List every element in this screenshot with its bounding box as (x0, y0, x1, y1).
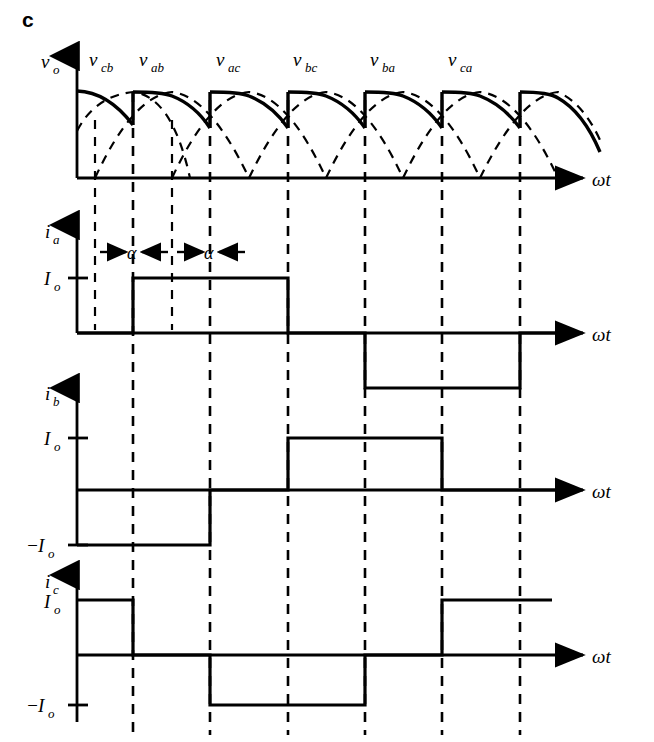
ic-label-sub: c (53, 582, 59, 597)
ib-x-axis-label: ωt (592, 481, 611, 502)
ib-tick-Io-sub: o (54, 439, 61, 454)
alpha-label-1: α (127, 243, 137, 263)
segment-label-vab-main: v (139, 49, 148, 70)
ic-tick-label-neg-Io: − I o (26, 695, 55, 721)
segment-label-vab: v ab (139, 49, 165, 75)
ic-label-main: i (45, 571, 50, 592)
ic-tick-neg-sub: o (48, 706, 55, 721)
ib-tick-neg-main: I (37, 535, 46, 556)
alpha-label-2: α (204, 243, 214, 263)
segment-label-vac-sub: ac (228, 60, 241, 75)
segment-label-vca-main: v (448, 49, 457, 70)
ia-axis-label: i a (45, 221, 60, 247)
segment-label-vbc: v bc (293, 49, 318, 75)
segment-label-vac-main: v (216, 49, 225, 70)
ia-x-axis-label: ωt (592, 324, 611, 345)
gridline-group-commutation (133, 92, 520, 735)
figure-container: c (0, 0, 654, 742)
segment-label-vac: v ac (216, 49, 241, 75)
waveform-diagram: v o ωt v cb v ab v ac v (0, 0, 654, 742)
segment-label-vba-sub: ba (382, 60, 396, 75)
segment-label-vba-main: v (370, 49, 379, 70)
ib-tick-label-neg-Io: − I o (26, 535, 55, 561)
vo-solid-waveform (77, 91, 600, 152)
segment-label-vcb-main: v (89, 49, 98, 70)
segment-label-vcb-sub: cb (101, 60, 114, 75)
segment-label-vba: v ba (370, 49, 396, 75)
ib-label-sub: b (53, 394, 60, 409)
ic-waveform (77, 600, 552, 705)
vo-axis-label: v o (41, 51, 60, 77)
vo-label-sub: o (53, 62, 60, 77)
ib-axis-label: i b (45, 383, 60, 409)
ib-tick-Io-main: I (43, 428, 52, 449)
ic-tick-Io-sub: o (54, 602, 61, 617)
ia-tick-label-Io: I o (43, 268, 61, 294)
ic-tick-neg-sign: − (26, 695, 39, 716)
ia-tick-Io-sub: o (54, 279, 61, 294)
ib-label-main: i (45, 383, 50, 404)
segment-label-vca: v ca (448, 49, 473, 75)
vo-label-main: v (41, 51, 50, 72)
plot-ic: i c I o − I o ωt (26, 571, 611, 722)
segment-label-vbc-main: v (293, 49, 302, 70)
ia-label-sub: a (53, 232, 60, 247)
segment-label-vab-sub: ab (151, 60, 165, 75)
ia-tick-Io-main: I (43, 268, 52, 289)
plot-ia: i a I o ωt α α (43, 221, 611, 388)
vo-x-axis-label: ωt (592, 169, 611, 190)
ia-label-main: i (45, 221, 50, 242)
ic-x-axis-label: ωt (592, 646, 611, 667)
ic-tick-Io-main: I (43, 591, 52, 612)
ic-tick-neg-main: I (37, 695, 46, 716)
segment-label-group: v cb v ab v ac v bc v ba (89, 49, 473, 75)
segment-label-vca-sub: ca (460, 60, 473, 75)
segment-label-vcb: v cb (89, 49, 114, 75)
ib-tick-label-Io: I o (43, 428, 61, 454)
segment-label-vbc-sub: bc (305, 60, 318, 75)
plot-ib: i b I o − I o ωt (26, 383, 611, 561)
panel-letter: c (22, 8, 34, 32)
ib-tick-neg-sign: − (26, 535, 39, 556)
ib-tick-neg-sub: o (48, 546, 55, 561)
plot-vo: v o ωt v cb v ab v ac v (41, 49, 611, 190)
ib-waveform (77, 438, 575, 545)
